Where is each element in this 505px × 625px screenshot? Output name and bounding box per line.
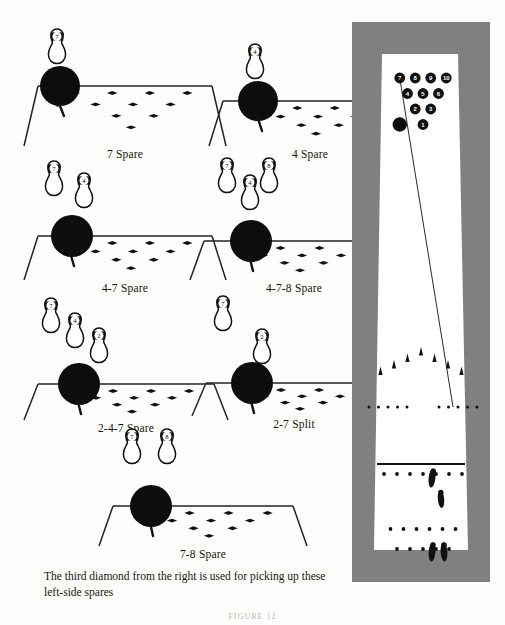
range-finder-dot xyxy=(368,406,371,409)
bowling-ball xyxy=(58,363,100,405)
bowling-ball xyxy=(231,362,273,404)
approach-dot xyxy=(428,527,432,531)
lane-diamond-marker xyxy=(129,396,139,400)
lane-diamond-marker xyxy=(126,125,136,129)
lane-diamond-marker xyxy=(145,241,155,245)
range-finder-dot xyxy=(406,406,409,409)
lane-diamond-marker xyxy=(167,396,177,400)
lane-diamond-marker xyxy=(108,389,118,393)
spare-lane-diagram: 78 xyxy=(105,428,301,546)
lane-diamond-marker xyxy=(111,114,121,118)
lane-diamond-marker xyxy=(318,401,328,405)
panel-2-4-7-spare: 7422-4-7 Spare xyxy=(30,296,222,442)
pin-number-text: 2 xyxy=(97,332,100,339)
lane-diamond-marker xyxy=(107,91,117,95)
lane-diamond-marker xyxy=(165,249,175,253)
panel-4-7-spare-label: 4-7 Spare xyxy=(30,282,220,294)
bowling-ball xyxy=(230,220,272,262)
bowling-pin-7: 7 xyxy=(123,429,140,464)
approach-dot xyxy=(395,472,399,476)
bowling-pin-4: 4 xyxy=(66,313,83,348)
approach-dot xyxy=(415,527,419,531)
lane-diamond-marker xyxy=(245,519,255,523)
approach-dot xyxy=(402,527,406,531)
lane-diamond-marker xyxy=(126,266,136,270)
lane-diamond-marker xyxy=(188,526,198,530)
lane-diamond-marker xyxy=(336,254,346,258)
approach-dot xyxy=(441,527,445,531)
approach-dot xyxy=(408,547,412,551)
approach-dot xyxy=(460,472,464,476)
lane-diamond-marker xyxy=(296,123,306,127)
bowling-pin-7: 7 xyxy=(48,29,65,64)
range-finder-dot xyxy=(396,406,399,409)
lane-diamond-marker xyxy=(262,511,272,515)
lane-diamond-marker xyxy=(295,268,305,272)
lane-diamond-marker xyxy=(311,132,321,136)
range-finder-dot xyxy=(438,406,441,409)
ball-at-pins xyxy=(393,117,407,131)
approach-dot xyxy=(421,547,425,551)
spare-lane-diagram: 7 xyxy=(30,28,220,146)
lane-diamond-marker xyxy=(128,249,138,253)
lane-diamond-marker xyxy=(275,115,285,119)
lane-diamond-marker xyxy=(318,261,328,265)
range-finder-dot xyxy=(387,406,390,409)
bowling-pin-4: 4 xyxy=(75,173,92,208)
lane-diamond-marker xyxy=(334,123,344,127)
lane-diamond-marker xyxy=(184,389,194,393)
lane-diamond-marker xyxy=(165,103,175,107)
lane-diamond-marker xyxy=(314,388,324,392)
bowling-pin-8: 8 xyxy=(158,429,175,464)
lane-diamond-marker xyxy=(275,246,285,250)
panel-7-8-spare-label: 7-8 Spare xyxy=(105,548,301,560)
lane-diamond-marker xyxy=(297,254,307,258)
lane-diamond-marker xyxy=(128,103,138,107)
approach-dot xyxy=(382,472,386,476)
approach-dot xyxy=(447,472,451,476)
lane-diamond-marker xyxy=(297,394,307,398)
lane-diamond-marker xyxy=(182,91,192,95)
approach-dot xyxy=(395,547,399,551)
spare-lane-diagram: 74 xyxy=(30,158,220,280)
lane-diamond-marker xyxy=(335,394,345,398)
rack-pin-label-10: 10 xyxy=(443,75,450,81)
approach-dot xyxy=(408,472,412,476)
bowling-pin-8: 8 xyxy=(260,158,277,193)
lane-diamond-marker xyxy=(167,519,177,523)
lane-diamond-marker xyxy=(292,106,302,110)
lane-diamond-marker xyxy=(330,106,340,110)
lane-diamond-marker xyxy=(111,258,121,262)
lane-diamond-marker xyxy=(127,410,137,414)
lane-diamond-marker xyxy=(206,519,216,523)
lane-diamond-marker xyxy=(149,114,159,118)
lane-diamond-marker xyxy=(107,241,117,245)
range-finder-dot xyxy=(476,406,479,409)
approach-dot xyxy=(421,472,425,476)
lane-diamond-marker xyxy=(145,91,155,95)
bowling-pin-7: 7 xyxy=(214,296,231,331)
bowling-pin-2: 2 xyxy=(253,329,270,364)
range-finder-dot xyxy=(447,406,450,409)
panel-7-8-spare: 787-8 Spare xyxy=(105,428,301,568)
range-finder-dot xyxy=(457,406,460,409)
approach-dot xyxy=(447,547,451,551)
lane-diamond-marker xyxy=(223,511,233,515)
approach-dot xyxy=(454,527,458,531)
bowling-ball xyxy=(40,66,80,106)
lane-diamond-marker xyxy=(182,241,192,245)
lane-overview-svg: 78910456231 xyxy=(352,22,490,582)
lane-diamond-marker xyxy=(227,526,237,530)
approach-dot xyxy=(389,527,393,531)
spare-lane-diagram: 742 xyxy=(30,296,222,420)
lane-diamond-marker xyxy=(184,511,194,515)
lane-diamond-marker xyxy=(279,261,289,265)
range-finder-dot xyxy=(377,406,380,409)
lane-diamond-marker xyxy=(295,407,305,411)
panel-4-7-spare: 744-7 Spare xyxy=(30,158,220,302)
bowling-pin-7: 7 xyxy=(45,161,62,196)
figure-label: FIGURE 12 xyxy=(0,612,505,621)
page-caption: The third diamond from the right is used… xyxy=(44,568,344,600)
bowling-pin-7: 7 xyxy=(218,158,235,193)
lane-diamond-marker xyxy=(204,534,214,538)
